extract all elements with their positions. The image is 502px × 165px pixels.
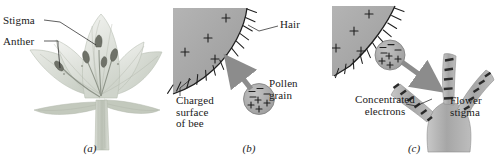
label-charged-surface-of-bee: Charged surface of bee <box>176 95 214 130</box>
label-pollen-grain: Pollen grain <box>269 78 321 101</box>
label-hair: Hair <box>280 19 300 31</box>
charged-bee-surface <box>173 8 247 94</box>
flower-drawing <box>30 14 162 150</box>
panel-a: Stigma Anther (a) <box>0 0 167 165</box>
label-flower-stigma: Flower stigma <box>450 95 482 118</box>
panel-c: Concentrated electrons Flower stigma (c) <box>332 0 502 165</box>
label-anther: Anther <box>3 36 34 48</box>
panel-b: Hair Pollen grain Charged surface of bee… <box>167 0 332 165</box>
attraction-arrow <box>237 71 251 89</box>
panel-a-caption: (a) <box>70 142 110 154</box>
pollen-grain-particle <box>375 40 405 70</box>
transfer-arrow <box>402 62 427 80</box>
electrostatics-pollination-figure: Stigma Anther (a) <box>0 0 502 165</box>
panel-c-caption: (c) <box>394 142 434 154</box>
label-concentrated-electrons: Concentrated electrons <box>332 94 438 117</box>
label-stigma: Stigma <box>3 15 35 27</box>
panel-b-caption: (b) <box>229 142 269 154</box>
panel-c-illustration <box>332 0 502 165</box>
